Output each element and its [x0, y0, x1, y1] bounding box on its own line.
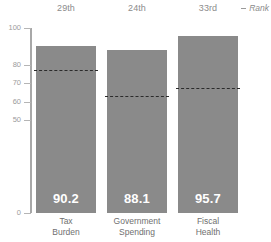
rank-legend-label: Rank [249, 3, 269, 13]
reference-line-tax-burden [34, 70, 98, 71]
category-label-fiscal-health: Fiscal Health [171, 216, 245, 237]
y-tick-label-50: 50 [0, 116, 21, 124]
y-tick-0 [24, 213, 31, 214]
plot-area: 100 80 70 60 50 0 90.2 88.1 95.7 [0, 22, 271, 214]
bar-tax-burden[interactable]: 90.2 [36, 46, 96, 213]
category-label-tax-burden-line2: Burden [29, 227, 103, 238]
category-labels: Tax Burden Government Spending Fiscal He… [0, 216, 271, 242]
rank-label-tax-burden: 29th [36, 3, 96, 13]
reference-line-government-spending [105, 96, 169, 97]
y-tick-100 [24, 28, 31, 29]
dash-marker-icon [241, 8, 246, 9]
bar-fiscal-health[interactable]: 95.7 [178, 36, 238, 213]
category-label-government-spending-line1: Government [100, 216, 174, 227]
y-tick-label-70: 70 [0, 79, 21, 87]
y-tick-50 [24, 120, 31, 121]
y-tick-80 [24, 65, 31, 66]
rank-legend: Rank [241, 3, 269, 13]
y-tick-60 [24, 102, 31, 103]
bar-value-fiscal-health: 95.7 [178, 191, 238, 206]
category-label-tax-burden-line1: Tax [29, 216, 103, 227]
category-label-government-spending: Government Spending [100, 216, 174, 237]
bar-chart: 29th 24th 33rd Rank 100 80 70 60 50 0 90… [0, 0, 271, 242]
y-tick-label-60: 60 [0, 98, 21, 106]
category-label-fiscal-health-line2: Health [171, 227, 245, 238]
y-tick-70 [24, 83, 31, 84]
rank-label-government-spending: 24th [107, 3, 167, 13]
y-tick-label-80: 80 [0, 61, 21, 69]
category-label-fiscal-health-line1: Fiscal [171, 216, 245, 227]
bar-value-government-spending: 88.1 [107, 191, 167, 206]
reference-line-fiscal-health [176, 88, 240, 89]
rank-row: 29th 24th 33rd Rank [0, 0, 271, 22]
category-label-government-spending-line2: Spending [100, 227, 174, 238]
bar-government-spending[interactable]: 88.1 [107, 50, 167, 213]
bar-value-tax-burden: 90.2 [36, 191, 96, 206]
y-tick-label-100: 100 [0, 24, 21, 32]
category-label-tax-burden: Tax Burden [29, 216, 103, 237]
rank-label-fiscal-health: 33rd [178, 3, 238, 13]
